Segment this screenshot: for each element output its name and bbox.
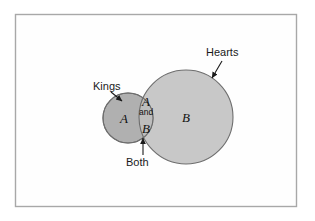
set-a-symbol: A <box>120 112 128 125</box>
venn-diagram-canvas <box>0 0 315 221</box>
kings-callout-label: Kings <box>93 81 121 92</box>
both-callout-label: Both <box>126 157 149 168</box>
hearts-callout-label: Hearts <box>206 47 238 58</box>
intersection-conjunction-label: and <box>139 108 153 117</box>
intersection-symbol-b: B <box>142 122 150 135</box>
venn-diagram-figure: Kings Hearts Both A B A and B <box>0 0 315 221</box>
set-b-symbol: B <box>182 111 190 124</box>
